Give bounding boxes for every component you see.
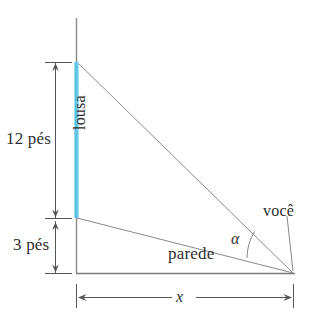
blackboard-label: lousa [72, 95, 88, 130]
observer-leader-line [287, 216, 293, 271]
angle-arc-alpha [247, 232, 255, 259]
observer-label: você [263, 203, 294, 219]
distance-label-x: x [176, 289, 183, 305]
sight-line-upper [77, 62, 293, 273]
angle-label-alpha: α [231, 231, 240, 247]
wall-label: parede [168, 245, 215, 262]
dimension-label-board-height: 12 pés [6, 130, 51, 147]
diagram-canvas [0, 0, 322, 319]
figure-container: 12 pés 3 pés lousa parede você α x [0, 0, 322, 319]
dimension-label-below-height: 3 pés [13, 236, 49, 253]
